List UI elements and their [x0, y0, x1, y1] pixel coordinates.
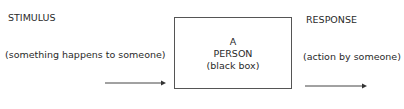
- response-arrow: [305, 84, 367, 89]
- arrows-layer: [0, 0, 404, 109]
- stimulus-arrow: [105, 81, 166, 86]
